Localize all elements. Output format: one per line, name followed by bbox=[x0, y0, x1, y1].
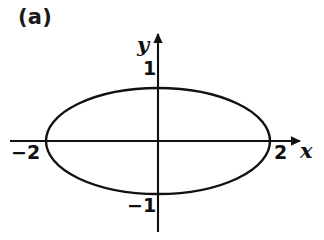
y-axis-label: y bbox=[137, 34, 149, 55]
plot-canvas bbox=[0, 0, 324, 240]
panel-label: (a) bbox=[18, 7, 52, 28]
figure-panel: (a) y x 1 −1 −2 2 bbox=[0, 0, 324, 240]
y-tick-label-minus-1: −1 bbox=[127, 196, 156, 215]
x-tick-label-2: 2 bbox=[274, 143, 287, 162]
x-axis-label: x bbox=[300, 140, 313, 161]
y-tick-label-1: 1 bbox=[143, 59, 156, 78]
x-tick-label-minus-2: −2 bbox=[11, 143, 40, 162]
